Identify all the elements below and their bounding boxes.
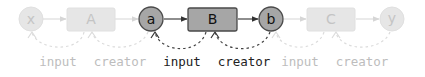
node-B-label: B [208,11,218,27]
label-creator-B: creator [218,54,271,69]
computation-graph-diagram: x A a B b C y [0,0,425,77]
node-C[interactable]: C [307,8,355,31]
node-C-label: C [326,11,336,27]
node-A[interactable]: A [67,8,115,31]
back-edge-y-to-C-creator [336,32,390,47]
back-edge-B-to-a-input [155,32,206,49]
arrowhead-icon [211,32,219,38]
node-B[interactable]: B [188,8,237,31]
arrowhead-icon [28,32,36,38]
back-edge-a-to-A-creator [92,32,148,47]
nodes: x A a B b C y [19,7,404,31]
node-x-label: x [27,11,35,27]
label-input-x: input [39,54,77,69]
arrowhead-icon [332,32,340,38]
node-A-label: A [86,11,96,27]
label-input-a: input [163,54,201,69]
node-b[interactable]: b [259,7,283,31]
label-input-b: input [281,54,319,69]
arrowhead-icon [272,32,280,38]
back-edge-A-to-x-input [32,32,84,47]
arrowhead-icon [88,32,96,38]
label-creator-A: creator [94,54,147,69]
back-edge-C-to-b-input [276,32,324,47]
node-y-label: y [388,10,396,26]
node-a[interactable]: a [139,7,163,31]
node-a-label: a [147,11,156,27]
label-creator-C: creator [336,54,389,69]
back-edge-b-to-B-creator [215,32,270,49]
arrowhead-icon [151,32,159,38]
back-edges [28,32,390,49]
edge-labels: input creator input creator input creato… [39,54,389,69]
node-y[interactable]: y [380,7,404,31]
node-x[interactable]: x [19,7,43,31]
diagram-svg: x A a B b C y [0,0,425,77]
node-b-label: b [267,11,276,27]
